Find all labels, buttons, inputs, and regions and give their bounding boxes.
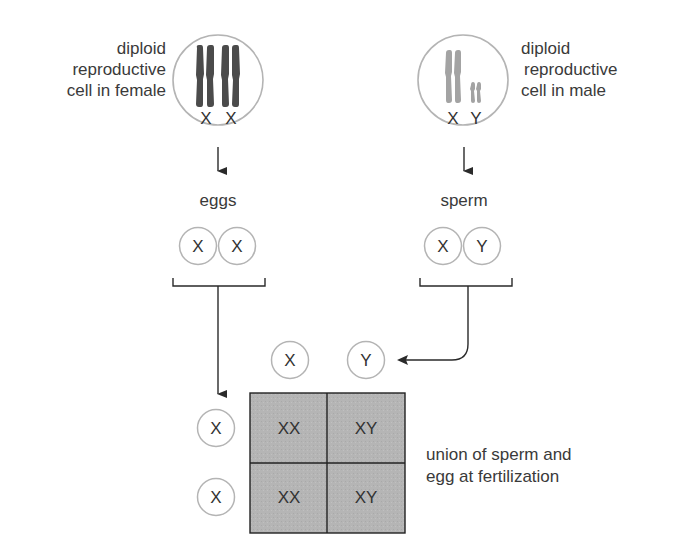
egg-gamete-label-1: X <box>192 237 203 256</box>
female-diploid-cell <box>173 35 263 125</box>
punnett-row-header-1: X <box>210 419 221 438</box>
punnett-cell-1-1: XX <box>278 419 301 438</box>
punnett-square: XX XY XX XY <box>250 393 405 533</box>
sperm-to-grid-curve <box>399 286 468 360</box>
punnett-cell-2-2: XY <box>355 488 378 507</box>
sperm-gametes: X Y <box>425 228 501 265</box>
sperm-gamete-label-y: Y <box>476 237 487 256</box>
male-chromosome-label-x: X <box>447 109 458 128</box>
egg-gamete-label-2: X <box>231 237 242 256</box>
punnett-row-header-2: X <box>210 488 221 507</box>
egg-gametes: X X <box>180 228 256 265</box>
egg-bracket <box>173 278 265 286</box>
male-diploid-cell <box>418 35 508 125</box>
sperm-gamete-label-x: X <box>437 237 448 256</box>
female-chromosome-label-1: X <box>200 109 211 128</box>
diagram-canvas: X X X Y X X X Y X Y X X XX XY XX XY <box>0 0 678 553</box>
punnett-cell-1-2: XY <box>355 419 378 438</box>
female-chromosome-label-2: X <box>225 109 236 128</box>
male-chromosome-label-y: Y <box>470 109 481 128</box>
punnett-column-header-2: Y <box>360 351 371 370</box>
punnett-column-header-1: X <box>284 351 295 370</box>
sperm-bracket <box>420 278 512 286</box>
punnett-cell-2-1: XX <box>278 488 301 507</box>
